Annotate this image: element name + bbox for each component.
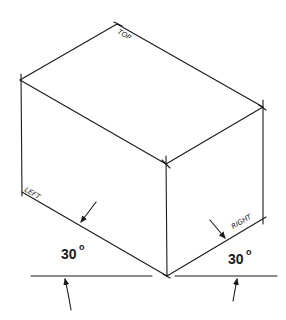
top-face-label: TOP: [116, 28, 133, 42]
right-ground-arrow-icon: [233, 279, 237, 301]
left-angle-value: 30: [61, 246, 77, 262]
front-vertical-edge: [166, 156, 167, 276]
vertical-edges: [21, 74, 263, 276]
top-back-right-edge: [117, 24, 263, 107]
right-angle-label: 30 o: [228, 247, 252, 267]
isometric-diagram: TOP LEFT RIGHT 30 o 30 o: [0, 0, 286, 320]
right-angle-degree: o: [246, 247, 252, 257]
left-vertical-edge: [21, 74, 22, 196]
top-face: [20, 22, 263, 164]
top-back-left-edge: [20, 24, 117, 80]
top-front-left-edge: [20, 80, 166, 164]
left-face-label: LEFT: [23, 186, 42, 202]
right-face-label: RIGHT: [230, 212, 254, 230]
diagram-canvas: TOP LEFT RIGHT 30 o 30 o: [0, 0, 286, 320]
right-angle-value: 30: [228, 251, 244, 267]
angle-arrows: [65, 202, 237, 310]
left-edge-arrow-icon: [81, 202, 96, 222]
right-edge-arrow-icon: [210, 220, 225, 238]
top-front-right-edge: [166, 107, 263, 164]
left-ground-arrow-icon: [65, 279, 71, 310]
left-angle-degree: o: [79, 242, 85, 252]
left-angle-label: 30 o: [61, 242, 85, 262]
